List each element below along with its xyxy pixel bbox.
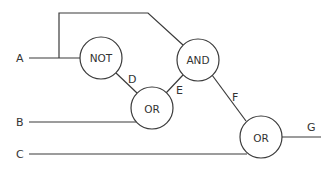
gate-or-2-label: OR — [253, 132, 269, 144]
output-label-g: G — [307, 121, 316, 134]
gate-and-label: AND — [186, 54, 209, 66]
logic-circuit-diagram: NOT AND OR OR A B C G D E F — [0, 0, 336, 171]
wire-label-d: D — [128, 73, 136, 86]
input-label-b: B — [16, 116, 24, 129]
input-label-c: C — [16, 148, 24, 161]
gate-or-2: OR — [240, 116, 282, 158]
wire-label-f: F — [232, 91, 238, 104]
wire-f — [212, 75, 246, 121]
wire-label-e: E — [176, 84, 183, 97]
gate-or-1: OR — [131, 87, 173, 129]
gate-not: NOT — [80, 37, 122, 79]
gate-or-1-label: OR — [144, 103, 160, 115]
input-label-a: A — [16, 52, 24, 65]
gate-and: AND — [177, 39, 219, 81]
gate-not-label: NOT — [90, 52, 113, 64]
